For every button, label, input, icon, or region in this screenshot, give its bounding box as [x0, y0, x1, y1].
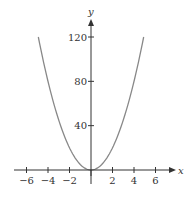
x-tick-label: 2 — [109, 175, 115, 186]
y-axis-arrow-icon — [88, 19, 94, 26]
y-tick-label: 120 — [68, 32, 87, 43]
x-tick-label: −2 — [62, 175, 77, 186]
y-tick-label: 40 — [74, 120, 87, 131]
y-tick-label: 80 — [74, 76, 87, 87]
parabola-chart: −6−4−22464080120 x y — [0, 0, 195, 198]
x-axis-arrow-icon — [169, 167, 176, 173]
y-axis-label: y — [87, 6, 94, 17]
x-tick-label: 4 — [131, 175, 137, 186]
ticks: −6−4−22464080120 — [19, 32, 159, 187]
axes — [14, 19, 176, 184]
x-axis-label: x — [178, 165, 184, 176]
x-tick-label: 6 — [152, 175, 158, 186]
x-tick-label: −6 — [19, 175, 34, 186]
x-tick-label: −4 — [41, 175, 56, 186]
